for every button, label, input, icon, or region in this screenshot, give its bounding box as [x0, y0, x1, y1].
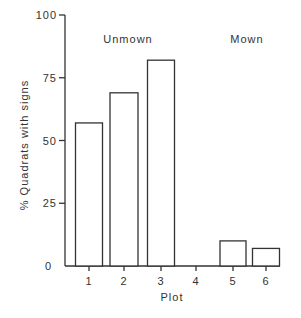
bar-plot-1: [76, 123, 103, 266]
x-tick-label: 1: [85, 275, 92, 287]
annotation-unmown: Unmown: [103, 33, 152, 45]
bars: [76, 60, 280, 266]
bar-plot-5: [220, 241, 246, 266]
y-tick-label: 50: [43, 135, 57, 147]
annotation-mown: Mown: [230, 33, 263, 45]
x-tick-label: 5: [229, 275, 236, 287]
x-axis-label: Plot: [161, 291, 184, 303]
x-tick-label: 2: [120, 275, 127, 287]
y-axis-label: % Quadrats with signs: [18, 80, 30, 210]
bar-plot-2: [110, 93, 138, 266]
y-tick-label: 0: [45, 260, 52, 272]
x-tick-label: 6: [262, 275, 269, 287]
y-tick-label: 100: [36, 9, 57, 21]
x-tick-label: 3: [157, 275, 164, 287]
bar-plot-6: [253, 248, 280, 266]
y-ticks: 0255075100: [36, 9, 65, 272]
bar-plot-3: [148, 60, 175, 266]
y-tick-label: 75: [43, 72, 57, 84]
y-tick-label: 25: [43, 197, 57, 209]
x-ticks: 123456: [85, 266, 269, 287]
bar-chart: 0255075100 123456 Unmown Mown Plot % Qua…: [0, 0, 301, 318]
x-tick-label: 4: [192, 275, 199, 287]
